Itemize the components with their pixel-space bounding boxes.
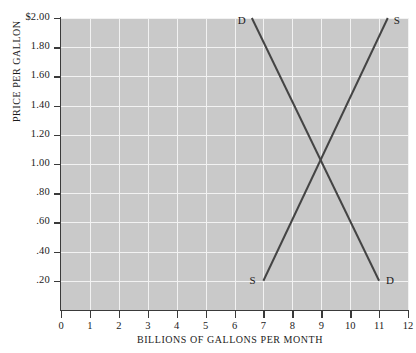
x-tick-label: 10: [340, 320, 360, 331]
x-tick-mark: [235, 311, 236, 318]
gridline-horizontal: [61, 281, 408, 282]
x-tick-mark: [408, 311, 409, 318]
gridline-horizontal: [61, 18, 408, 19]
gridline-horizontal: [61, 193, 408, 194]
x-tick-label: 0: [51, 320, 71, 331]
y-tick-mark: [54, 222, 61, 223]
y-tick-mark: [54, 135, 61, 136]
y-tick-label: 1.00: [31, 157, 50, 168]
gridline-horizontal: [61, 106, 408, 107]
x-tick-mark: [119, 311, 120, 318]
x-tick-label: 4: [167, 320, 187, 331]
y-tick-label: 1.80: [31, 40, 50, 51]
y-tick-label: .40: [36, 245, 50, 256]
y-tick-mark: [54, 252, 61, 253]
y-tick-mark: [54, 47, 61, 48]
curve-label-d: D: [238, 14, 246, 26]
x-tick-mark: [321, 311, 322, 318]
plot-area: [61, 18, 408, 310]
x-tick-mark: [350, 311, 351, 318]
y-tick-mark: [54, 193, 61, 194]
x-tick-label: 8: [282, 320, 302, 331]
x-tick-mark: [148, 311, 149, 318]
curve-label-d: D: [386, 274, 394, 286]
y-tick-mark: [54, 281, 61, 282]
supply-demand-chart: $2.001.801.601.401.201.00.80.60.40.20 01…: [0, 0, 416, 353]
y-tick-mark: [54, 18, 61, 19]
gridline-vertical: [408, 18, 409, 310]
x-tick-mark: [263, 311, 264, 318]
y-tick-mark: [54, 76, 61, 77]
y-axis-title: PRICE PER GALLON: [11, 20, 22, 122]
x-tick-label: 6: [225, 320, 245, 331]
y-tick-mark: [54, 106, 61, 107]
x-tick-label: 2: [109, 320, 129, 331]
y-tick-label: .80: [36, 186, 50, 197]
curve-label-s: S: [394, 14, 400, 26]
gridline-horizontal: [61, 76, 408, 77]
x-tick-label: 7: [253, 320, 273, 331]
y-tick-label: 1.20: [31, 128, 50, 139]
x-tick-label: 12: [398, 320, 416, 331]
x-tick-mark: [206, 311, 207, 318]
y-tick-label: .20: [36, 274, 50, 285]
x-tick-label: 11: [369, 320, 389, 331]
x-tick-mark: [177, 311, 178, 318]
x-tick-label: 3: [138, 320, 158, 331]
x-tick-label: 9: [311, 320, 331, 331]
x-tick-label: 5: [196, 320, 216, 331]
x-tick-mark: [379, 311, 380, 318]
x-tick-label: 1: [80, 320, 100, 331]
gridline-horizontal: [61, 135, 408, 136]
gridline-horizontal: [61, 47, 408, 48]
gridline-horizontal: [61, 252, 408, 253]
y-tick-mark: [54, 164, 61, 165]
curve-label-s: S: [249, 274, 255, 286]
y-tick-label: 1.40: [31, 99, 50, 110]
x-axis-title: BILLIONS OF GALLONS PER MONTH: [0, 334, 416, 345]
y-tick-label: $2.00: [25, 11, 50, 22]
gridline-horizontal: [61, 164, 408, 165]
x-tick-mark: [61, 311, 62, 318]
y-tick-label: .60: [36, 215, 50, 226]
gridline-horizontal: [61, 222, 408, 223]
x-tick-mark: [292, 311, 293, 318]
x-tick-mark: [90, 311, 91, 318]
y-tick-label: 1.60: [31, 69, 50, 80]
